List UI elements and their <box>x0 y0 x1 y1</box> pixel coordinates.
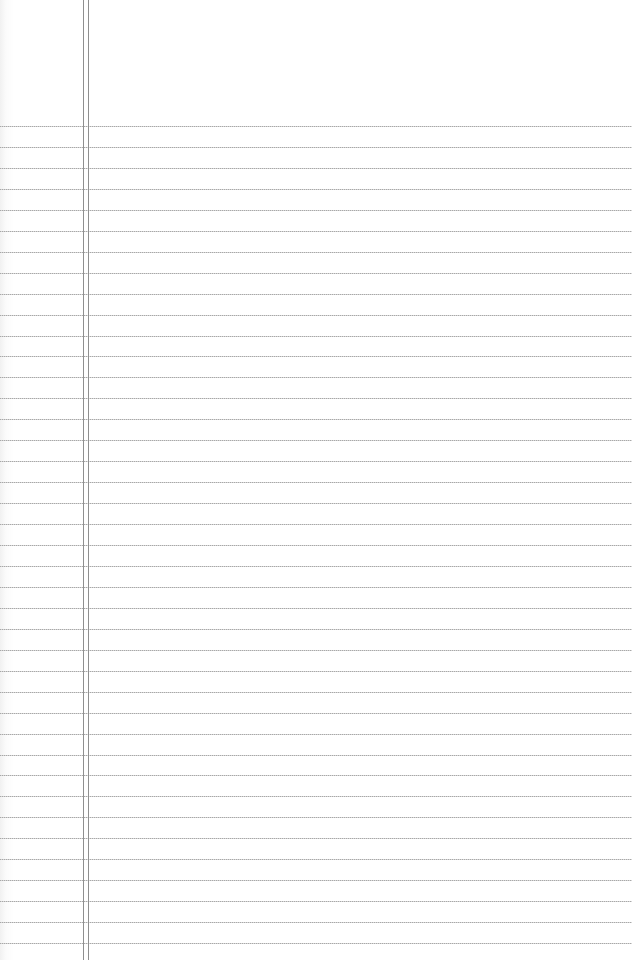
ruled-line <box>0 859 632 860</box>
ruled-line <box>0 713 632 714</box>
ruled-line <box>0 796 632 797</box>
ruled-line <box>0 252 632 253</box>
ruled-line <box>0 168 632 169</box>
ruled-line <box>0 126 632 127</box>
ruled-line <box>0 566 632 567</box>
ruled-line <box>0 189 632 190</box>
ruled-line <box>0 817 632 818</box>
ruled-line <box>0 692 632 693</box>
ruled-line <box>0 629 632 630</box>
ruled-line <box>0 147 632 148</box>
ruled-line <box>0 608 632 609</box>
ruled-line <box>0 377 632 378</box>
ruled-line <box>0 734 632 735</box>
ruled-line <box>0 440 632 441</box>
ruled-line <box>0 901 632 902</box>
ruled-line <box>0 838 632 839</box>
ruled-line <box>0 524 632 525</box>
ruled-line <box>0 671 632 672</box>
ruled-line <box>0 587 632 588</box>
ruled-line <box>0 315 632 316</box>
ruled-line <box>0 461 632 462</box>
ruled-line <box>0 356 632 357</box>
ruled-line <box>0 650 632 651</box>
margin-line <box>88 0 89 960</box>
ruled-line <box>0 880 632 881</box>
margin-line <box>83 0 84 960</box>
ruled-line <box>0 210 632 211</box>
ruled-line <box>0 755 632 756</box>
ruled-line <box>0 398 632 399</box>
ruled-line <box>0 922 632 923</box>
ruled-line <box>0 943 632 944</box>
ruled-paper-sheet <box>0 0 632 960</box>
ruled-line <box>0 482 632 483</box>
ruled-line <box>0 545 632 546</box>
ruled-line <box>0 231 632 232</box>
ruled-line <box>0 273 632 274</box>
ruled-line <box>0 503 632 504</box>
ruled-line <box>0 294 632 295</box>
ruled-line <box>0 775 632 776</box>
ruled-line <box>0 336 632 337</box>
ruled-line <box>0 419 632 420</box>
